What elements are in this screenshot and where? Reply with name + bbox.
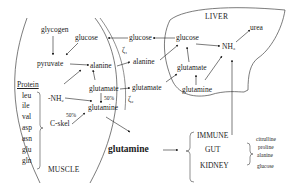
blood-glucose: glucose [129,34,152,42]
blood-alanine: alanine [133,58,155,66]
liver-urea: urea [250,24,263,32]
kidney-product: glucose [257,164,274,170]
liver-glutamate: glutamate [177,64,207,72]
liver-glutamine: glutamine [182,86,212,94]
muscle-label: MUSCLE [48,166,80,174]
muscle-glutamate: glutamate [89,85,119,93]
liver-label: LIVER [205,13,228,21]
protein-title: Protein [17,81,39,89]
muscle-glucose: glucose [75,34,98,42]
blood-glutamate: glutamate [132,84,162,92]
gut-product: proline [258,145,274,151]
protein-aa: asn [22,135,32,143]
cycle-1-icon: ζ₁ [122,47,128,55]
organ-kidney: KIDNEY [200,162,229,170]
blood-glutamine: glutamine [108,145,149,155]
gut-product: citrulline [256,137,276,143]
liver-glucose: glucose [176,34,199,42]
muscle-glutamine: glutamine [88,104,118,112]
protein-aa: leu [22,92,31,100]
cskel-percent: 50% [66,113,76,119]
muscle-alanine: alanine [90,62,112,70]
muscle-glycogen: glycogen [41,26,69,34]
organ-gut: GUT [205,146,220,154]
organ-immune: IMMUNE [197,132,228,140]
protein-aa: val [22,113,31,121]
liver-nh3: NH₃ [222,43,235,51]
muscle-pyruvate: pyruvate [37,60,63,68]
glutamate-percent: 50% [104,96,114,102]
muscle-nh2: -NH₂ [48,95,64,103]
protein-aa: gln [22,157,32,165]
protein-aa: glu [22,146,32,154]
muscle-cskel: C-skel [50,120,70,128]
cycle-2-icon: ζ₂ [128,96,134,104]
protein-aa: asp [22,124,32,132]
protein-aa: ile [22,102,30,110]
gut-product: alanine [257,153,273,159]
